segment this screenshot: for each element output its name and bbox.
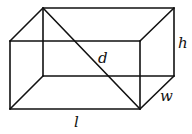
space-diagonal [43, 8, 140, 109]
diagonal-label: d [98, 49, 108, 67]
top-right-connector [140, 8, 174, 41]
bottom-left-connector [10, 76, 43, 109]
width-label: w [160, 87, 173, 105]
front-face [10, 41, 140, 109]
height-label: h [178, 34, 188, 52]
back-face [43, 8, 174, 76]
prism-diagram: h d w l [0, 0, 192, 134]
top-left-connector [10, 8, 43, 41]
length-label: l [74, 113, 79, 131]
